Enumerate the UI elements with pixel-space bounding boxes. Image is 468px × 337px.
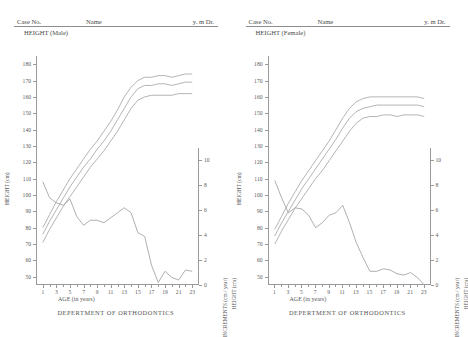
y2-tick-label: 8 [204,182,207,188]
y-tick [33,228,36,229]
department-footer: DEPERTMENT OF ORTHODONTICS [0,309,232,316]
x-tick-label: 5 [69,289,72,295]
y2-tick [431,285,434,286]
x-tick-minor [50,285,51,287]
growth-curves-male [36,56,199,285]
curve-mean-height [274,105,423,236]
y2-tick-label: 0 [204,282,207,288]
x-tick-label: 3 [286,289,289,295]
y-tick [33,162,36,163]
y-tick [33,260,36,261]
x-tick-minor [281,285,282,287]
x-tick-minor [390,285,391,287]
y-tick [265,228,268,229]
x-tick-label: 17 [380,289,386,295]
y-tick-label: 100 [23,192,31,198]
x-tick [192,285,193,288]
y-tick [33,81,36,82]
y-tick [33,195,36,196]
form-header-male: Case No. Name y. m Dr. [14,14,218,27]
y-tick-label: 120 [254,159,262,165]
y-tick-label: 80 [25,225,31,231]
y-tick-label: 130 [254,143,262,149]
x-tick-label: 21 [176,289,182,295]
x-tick [342,285,343,288]
y2-tick [431,210,434,211]
y-tick [265,81,268,82]
x-tick-label: 5 [300,289,303,295]
y-tick [33,97,36,98]
x-tick [84,285,85,288]
y-tick [33,179,36,180]
x-tick-label: 19 [162,289,168,295]
case-no-label: Case No. [17,18,41,25]
x-tick-label: 7 [82,289,85,295]
x-tick-minor [417,285,418,287]
x-tick-label: 11 [108,289,113,295]
y-tick-label: 120 [23,159,31,165]
header-rule [246,26,450,27]
y-axis-title: HEIGHT (cm) [236,172,242,205]
y-tick [33,244,36,245]
x-tick-minor [172,285,173,287]
y2-tick-label: 6 [436,207,439,213]
x-tick-label: 1 [41,289,44,295]
x-axis-title: AGE (in years) [290,296,327,302]
y-tick-label: 50 [257,274,263,280]
y2-tick [199,160,202,161]
x-tick-label: 15 [135,289,141,295]
x-tick-minor [63,285,64,287]
x-tick-minor [77,285,78,287]
y-tick-label: 110 [254,176,262,182]
y-tick-label: 180 [254,61,262,67]
x-tick-label: 23 [421,289,427,295]
x-tick-minor [118,285,119,287]
x-tick [329,285,330,288]
x-tick-minor [131,285,132,287]
case-no-label: Case No. [249,18,273,25]
y-tick [265,260,268,261]
y-tick [265,195,268,196]
plot-area-male: 5060708090100110120130140150160170180024… [36,56,199,285]
x-tick-minor [90,285,91,287]
form-header-female: Case No. Name y. m Dr. [246,14,450,27]
x-tick-label: 13 [121,289,127,295]
plot-area-female: 5060708090100110120130140150160170180024… [268,56,431,285]
y-tick-label: 50 [25,274,31,280]
x-tick [97,285,98,288]
curve--1sd-height [43,74,192,228]
y-axis-title: HEIGHT (cm) [4,172,10,205]
x-tick-label: 3 [55,289,58,295]
x-tick-label: 23 [189,289,195,295]
y-tick-label: 80 [257,225,263,231]
x-tick-minor [295,285,296,287]
x-axis-title: AGE (in years) [58,296,95,302]
x-tick-minor [335,285,336,287]
y2-tick-label: 2 [204,257,207,263]
y2-tick-label: 4 [204,232,207,238]
y2-tick [431,260,434,261]
doctor-label: y. m Dr. [424,18,445,25]
y-tick [265,211,268,212]
y-tick-label: 160 [23,94,31,100]
y-tick-label: 70 [25,241,31,247]
curve-increments [43,182,192,283]
x-tick [383,285,384,288]
y-tick [265,179,268,180]
y-tick [265,244,268,245]
y2-tick-label: 4 [436,232,439,238]
x-tick-minor [104,285,105,287]
x-tick [179,285,180,288]
x-tick-label: 21 [407,289,413,295]
y-tick-label: 60 [257,257,263,263]
y2-tick [431,235,434,236]
panel-female: Case No. Name y. m Dr. HEIGHT (Female) 5… [232,0,464,325]
y-tick-label: 100 [254,192,262,198]
curve-mean-height [43,82,192,234]
x-tick [138,285,139,288]
x-tick-label: 15 [367,289,373,295]
y2-tick-label: 2 [436,257,439,263]
y2-tick [199,210,202,211]
x-tick-minor [158,285,159,287]
y-tick [33,211,36,212]
